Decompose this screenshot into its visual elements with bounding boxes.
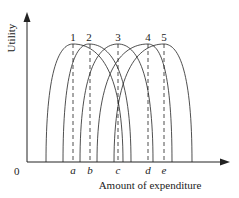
curve-label-2: 2: [86, 31, 92, 43]
utility-curve-1: [46, 44, 123, 162]
point-label-a: a: [70, 164, 76, 176]
x-axis-label: Amount of expenditure: [99, 179, 202, 191]
utility-diagram: Utility 0 Amount of expenditure 12345 ab…: [0, 0, 239, 198]
curve-label-3: 3: [115, 31, 121, 43]
origin-label: 0: [14, 165, 20, 177]
curve-label-5: 5: [161, 31, 167, 43]
curve-labels: 12345: [70, 31, 167, 43]
curve-label-4: 4: [145, 31, 151, 43]
y-axis-arrow-icon: [24, 12, 31, 22]
point-label-c: c: [116, 164, 121, 176]
x-axis-arrow-icon: [220, 159, 230, 166]
x-point-labels: abcde: [70, 164, 166, 176]
point-label-d: d: [145, 164, 151, 176]
point-label-e: e: [162, 164, 167, 176]
curve-label-1: 1: [70, 31, 76, 43]
utility-curves: [46, 44, 192, 162]
utility-curve-4: [97, 44, 172, 162]
point-label-b: b: [87, 164, 93, 176]
y-axis-label: Utility: [5, 23, 17, 52]
